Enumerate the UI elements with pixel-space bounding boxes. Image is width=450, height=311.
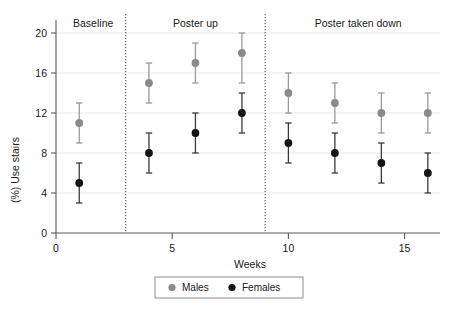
phase-label: Poster up	[173, 17, 218, 29]
legend-label-males: Males	[182, 282, 209, 293]
data-point-females	[192, 129, 200, 137]
data-point-females	[285, 139, 293, 147]
axes	[56, 20, 440, 233]
data-point-males	[424, 109, 432, 117]
y-tick-label: 12	[35, 107, 47, 119]
data-point-females	[238, 109, 246, 117]
x-tick-label: 5	[169, 242, 175, 254]
chart-canvas: 048121620 051015 BaselinePoster upPoster…	[0, 0, 450, 311]
phase-label: Poster taken down	[315, 17, 402, 29]
y-tick-label: 4	[41, 187, 47, 199]
data-point-females	[75, 179, 83, 187]
data-point-males	[192, 59, 200, 67]
y-tick-label: 0	[41, 227, 47, 239]
series-males	[75, 33, 431, 143]
data-point-males	[145, 79, 153, 87]
data-point-males	[75, 119, 83, 127]
data-point-females	[424, 169, 432, 177]
x-axis-title: Weeks	[234, 258, 266, 270]
phase-label: Baseline	[73, 17, 113, 29]
data-point-males	[285, 89, 293, 97]
legend-marker-males	[168, 284, 175, 291]
x-tick-label: 0	[53, 242, 59, 254]
data-point-females	[145, 149, 153, 157]
y-axis-ticks: 048121620	[35, 27, 56, 239]
data-point-females	[377, 159, 385, 167]
legend-marker-females	[228, 284, 235, 291]
y-tick-label: 16	[35, 67, 47, 79]
data-point-males	[377, 109, 385, 117]
x-axis-ticks: 051015	[53, 233, 411, 254]
y-tick-label: 8	[41, 147, 47, 159]
stair-use-chart: 048121620 051015 BaselinePoster upPoster…	[0, 0, 450, 311]
data-point-males	[331, 99, 339, 107]
chart-legend: Males Females	[155, 277, 303, 298]
phase-labels: BaselinePoster upPoster taken down	[73, 17, 402, 29]
data-point-females	[331, 149, 339, 157]
series-females	[75, 93, 431, 203]
y-tick-label: 20	[35, 27, 47, 39]
legend-label-females: Females	[242, 282, 280, 293]
y-axis-title: (%) Use stairs	[9, 137, 21, 203]
data-point-males	[238, 49, 246, 57]
x-tick-label: 15	[399, 242, 411, 254]
x-tick-label: 10	[283, 242, 295, 254]
